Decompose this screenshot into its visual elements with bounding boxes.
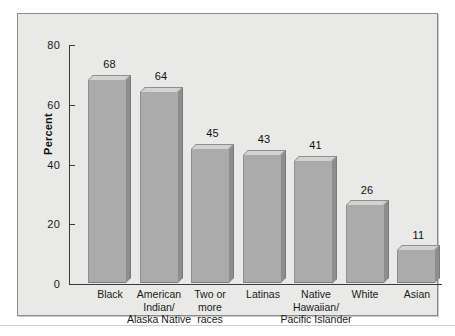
bar-top-face xyxy=(243,150,286,155)
y-tick-60: 60 xyxy=(69,105,70,106)
y-tick-20: 20 xyxy=(69,224,70,225)
bar-side-face xyxy=(229,144,234,283)
bar-value-label: 64 xyxy=(140,70,183,82)
y-tick-mark xyxy=(70,105,75,106)
y-tick-label: 80 xyxy=(47,39,60,51)
bar-side-face xyxy=(435,245,440,283)
bar-front xyxy=(346,205,384,283)
plot-area: 0 20 40 60 80 xyxy=(69,45,442,284)
bar-value-label: 26 xyxy=(346,184,389,196)
y-tick-mark xyxy=(70,284,75,285)
y-tick-label: 60 xyxy=(47,99,60,111)
y-tick-80: 80 xyxy=(69,45,70,46)
x-tick-label-asian: Asian xyxy=(385,288,449,301)
bar-top-face xyxy=(140,87,183,92)
bar-value-label: 11 xyxy=(397,229,440,241)
y-tick-0: 0 xyxy=(69,284,70,285)
y-tick-label: 40 xyxy=(47,159,60,171)
chart-panel: Percent 0 20 40 60 xyxy=(17,13,438,316)
bottom-divider xyxy=(0,325,455,326)
bar-front xyxy=(140,92,178,283)
bar-top-face xyxy=(88,75,131,80)
y-axis-title-text: Percent xyxy=(42,113,54,155)
y-tick-mark xyxy=(70,165,75,166)
y-tick-mark xyxy=(70,45,75,46)
bar-side-face xyxy=(384,200,389,283)
bar-side-face xyxy=(281,150,286,283)
bar-value-label: 68 xyxy=(88,58,131,70)
chart-figure: Percent 0 20 40 60 xyxy=(0,0,455,336)
bar-front xyxy=(191,149,229,283)
bar-top-face xyxy=(191,144,234,149)
y-tick-mark xyxy=(70,224,75,225)
bar-front xyxy=(397,250,435,283)
y-tick-label: 0 xyxy=(54,278,60,290)
y-tick-40: 40 xyxy=(69,165,70,166)
bar-front xyxy=(294,161,332,284)
y-tick-label: 20 xyxy=(47,218,60,230)
x-axis-line xyxy=(69,284,442,285)
bar-top-face xyxy=(397,245,440,250)
bar-value-label: 45 xyxy=(191,127,234,139)
bar-value-label: 43 xyxy=(243,133,286,145)
bar-top-face xyxy=(294,156,337,161)
bar-front xyxy=(88,80,126,283)
bar-side-face xyxy=(178,87,183,283)
bar-side-face xyxy=(332,156,337,284)
bar-value-label: 41 xyxy=(294,139,337,151)
bar-front xyxy=(243,155,281,283)
bar-top-face xyxy=(346,200,389,205)
bar-side-face xyxy=(126,75,131,283)
